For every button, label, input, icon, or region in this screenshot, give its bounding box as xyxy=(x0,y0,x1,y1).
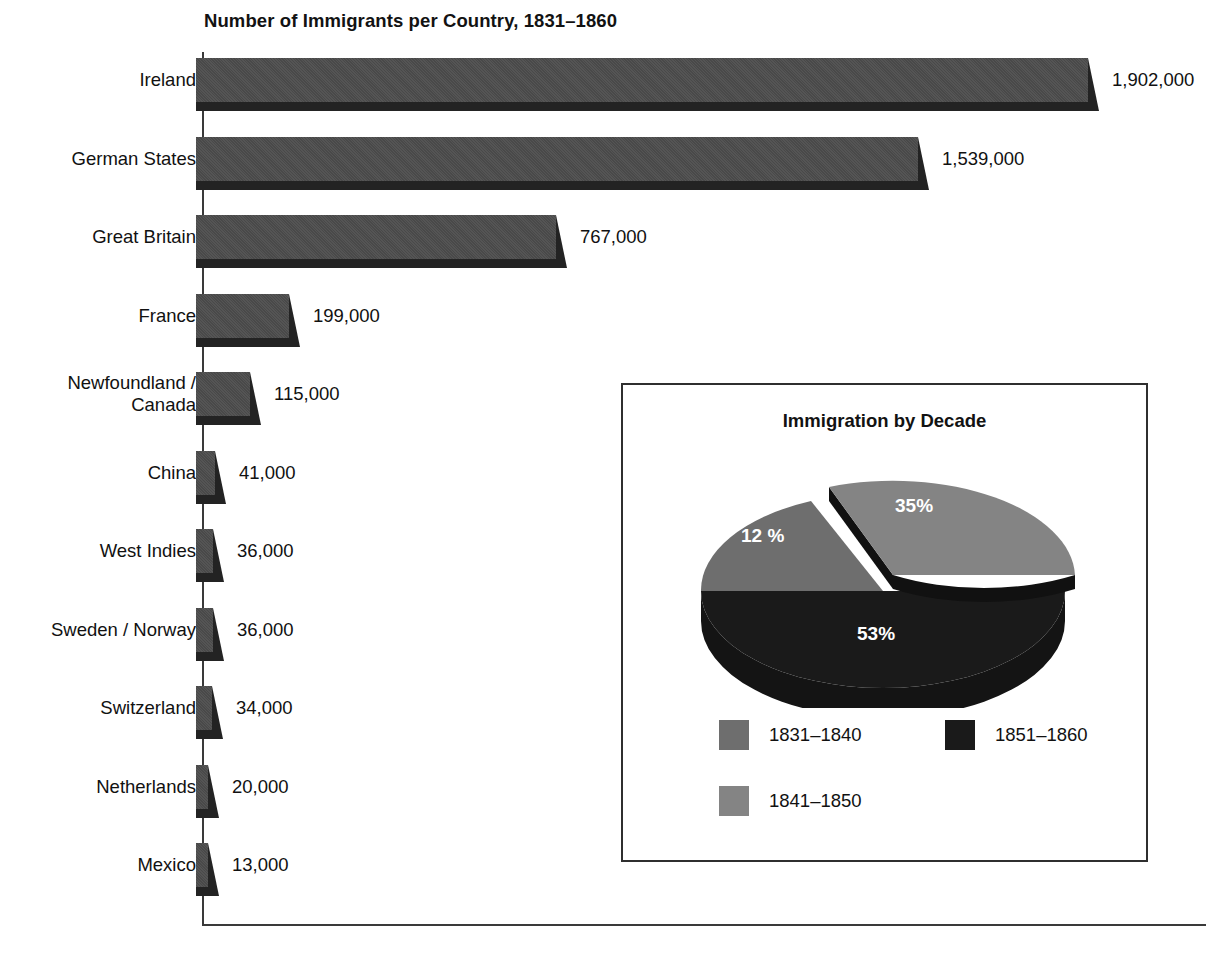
bar-category-label: Netherlands xyxy=(96,776,196,798)
bar-value-label: 1,902,000 xyxy=(1112,69,1194,91)
bar-row: France199,000 xyxy=(0,294,1208,348)
bar-front-face xyxy=(196,58,1088,102)
bar-bottom-shadow xyxy=(196,652,213,661)
bar-right-bevel xyxy=(212,686,223,739)
bar-front-face xyxy=(196,372,250,416)
bar-right-bevel xyxy=(215,451,226,504)
legend-label-1841-1850: 1841–1850 xyxy=(769,790,862,812)
bar-value-label: 36,000 xyxy=(237,619,294,641)
bar-shape[interactable] xyxy=(196,215,556,259)
bar-front-face xyxy=(196,137,918,181)
chart-page: Number of Immigrants per Country, 1831–1… xyxy=(0,0,1208,960)
bar-right-bevel xyxy=(918,137,929,190)
bar-right-bevel xyxy=(208,843,219,896)
bar-shape[interactable] xyxy=(196,372,250,416)
bar-value-label: 34,000 xyxy=(236,697,293,719)
bar-bottom-shadow xyxy=(196,809,208,818)
bar-right-bevel xyxy=(289,294,300,347)
bar-right-bevel xyxy=(250,372,261,425)
pie-slice-top-1841-1850 xyxy=(829,481,1075,575)
bar-bottom-shadow xyxy=(196,259,556,268)
bar-bottom-shadow xyxy=(196,181,918,190)
bar-bottom-shadow xyxy=(196,102,1088,111)
bar-value-label: 199,000 xyxy=(313,305,380,327)
bar-right-bevel xyxy=(208,765,219,818)
bar-row: German States1,539,000 xyxy=(0,137,1208,191)
bar-category-label: France xyxy=(138,305,196,327)
bar-front-face xyxy=(196,765,208,809)
bar-shape[interactable] xyxy=(196,765,208,809)
legend-entry-1841-1850[interactable]: 1841–1850 xyxy=(719,786,862,816)
legend-swatch-icon-1841-1850 xyxy=(719,786,749,816)
bar-bottom-shadow xyxy=(196,573,213,582)
pie-inset-panel: Immigration by Decade xyxy=(621,383,1148,862)
bar-bottom-shadow xyxy=(196,338,289,347)
bar-bottom-shadow xyxy=(196,730,212,739)
pie-chart-legend: 1831–1840 1851–1860 1841–1850 xyxy=(719,720,1139,840)
bar-value-label: 13,000 xyxy=(232,854,289,876)
bar-category-label: German States xyxy=(72,148,196,170)
bar-front-face xyxy=(196,529,213,573)
bar-shape[interactable] xyxy=(196,529,213,573)
bar-shape[interactable] xyxy=(196,451,215,495)
legend-swatch-icon-1851-1860 xyxy=(945,720,975,750)
bar-front-face xyxy=(196,451,215,495)
bar-category-label: China xyxy=(148,462,196,484)
bar-row: Great Britain767,000 xyxy=(0,215,1208,269)
bar-right-bevel xyxy=(556,215,567,268)
bar-category-label: Newfoundland / Canada xyxy=(67,372,196,416)
bar-bottom-shadow xyxy=(196,887,208,896)
bar-value-label: 36,000 xyxy=(237,540,294,562)
bar-value-label: 767,000 xyxy=(580,226,647,248)
legend-label-1851-1860: 1851–1860 xyxy=(995,724,1088,746)
bar-front-face xyxy=(196,843,208,887)
legend-entry-1831-1840[interactable]: 1831–1840 xyxy=(719,720,862,750)
bar-shape[interactable] xyxy=(196,843,208,887)
bar-right-bevel xyxy=(213,529,224,582)
bar-bottom-shadow xyxy=(196,495,215,504)
bar-value-label: 20,000 xyxy=(232,776,289,798)
category-baseline-line xyxy=(202,924,1206,926)
bar-value-label: 115,000 xyxy=(274,383,340,405)
bar-category-label: Ireland xyxy=(139,69,196,91)
bar-front-face xyxy=(196,294,289,338)
bar-category-label: Great Britain xyxy=(92,226,196,248)
bar-front-face xyxy=(196,215,556,259)
bar-right-bevel xyxy=(213,608,224,661)
pie-chart-title: Immigration by Decade xyxy=(623,410,1146,432)
legend-swatch-icon-1831-1840 xyxy=(719,720,749,750)
bar-shape[interactable] xyxy=(196,137,918,181)
bar-front-face xyxy=(196,608,213,652)
pie-percent-label-1851-1860: 53% xyxy=(857,623,895,645)
bar-value-label: 1,539,000 xyxy=(942,148,1024,170)
pie-chart-graphic: 35% 12 % 53% xyxy=(693,443,1083,708)
bar-value-label: 41,000 xyxy=(239,462,296,484)
pie-chart-svg xyxy=(693,443,1083,708)
bar-shape[interactable] xyxy=(196,58,1088,102)
page-title: Number of Immigrants per Country, 1831–1… xyxy=(204,10,617,32)
bar-row: Ireland1,902,000 xyxy=(0,58,1208,112)
legend-entry-1851-1860[interactable]: 1851–1860 xyxy=(945,720,1088,750)
legend-label-1831-1840: 1831–1840 xyxy=(769,724,862,746)
bar-front-face xyxy=(196,686,212,730)
pie-percent-label-1831-1840: 12 % xyxy=(741,525,784,547)
bar-shape[interactable] xyxy=(196,608,213,652)
bar-shape[interactable] xyxy=(196,686,212,730)
bar-right-bevel xyxy=(1088,58,1099,111)
bar-category-label: West Indies xyxy=(100,540,196,562)
bar-category-label: Switzerland xyxy=(100,697,196,719)
bar-category-label: Sweden / Norway xyxy=(51,619,196,641)
bar-bottom-shadow xyxy=(196,416,250,425)
bar-category-label: Mexico xyxy=(137,854,196,876)
pie-percent-label-1841-1850: 35% xyxy=(895,495,933,517)
bar-shape[interactable] xyxy=(196,294,289,338)
